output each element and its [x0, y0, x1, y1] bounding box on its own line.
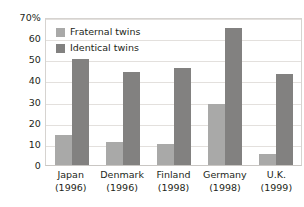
x-axis-category: Denmark(1996): [96, 169, 147, 194]
x-axis-category-name: Germany: [199, 169, 250, 182]
legend-swatch-fraternal: [56, 28, 65, 37]
x-axis-category: Japan(1996): [45, 169, 96, 194]
y-tick-label: 40: [0, 77, 41, 87]
bar-identical: [174, 68, 191, 165]
bar-fraternal: [106, 142, 123, 165]
y-tick-label: 30: [0, 98, 41, 108]
y-tick-label: 0: [0, 161, 41, 171]
bar-identical: [123, 72, 140, 165]
y-tick-label: 60: [0, 34, 41, 44]
x-axis-category: Finland(1998): [148, 169, 199, 194]
plot-area: Fraternal twins Identical twins: [45, 18, 302, 166]
x-axis-category-year: (1998): [199, 182, 250, 195]
legend-swatch-identical: [56, 44, 65, 53]
legend-item-identical: Identical twins: [56, 41, 140, 55]
chart-legend: Fraternal twins Identical twins: [56, 25, 140, 57]
bar-group: [148, 19, 199, 165]
x-axis-category-year: (1996): [45, 182, 96, 195]
x-axis-category-name: Denmark: [96, 169, 147, 182]
bar-group: [199, 19, 250, 165]
x-axis-category-year: (1999): [251, 182, 302, 195]
x-axis-category: U.K.(1999): [251, 169, 302, 194]
bar-fraternal: [259, 154, 276, 165]
y-tick-label: 70%: [0, 13, 41, 23]
bar-fraternal: [55, 135, 72, 165]
x-axis-category-year: (1996): [96, 182, 147, 195]
legend-label-fraternal: Fraternal twins: [70, 27, 140, 37]
bar-group: [250, 19, 301, 165]
y-tick-label: 10: [0, 140, 41, 150]
y-tick-label: 20: [0, 119, 41, 129]
bar-fraternal: [157, 144, 174, 165]
x-axis-category-name: Finland: [148, 169, 199, 182]
bar-identical: [225, 28, 242, 165]
y-tick-label: 50: [0, 56, 41, 66]
x-axis-category-name: U.K.: [251, 169, 302, 182]
legend-label-identical: Identical twins: [70, 43, 139, 53]
x-axis-category-name: Japan: [45, 169, 96, 182]
x-axis: Japan(1996)Denmark(1996)Finland(1998)Ger…: [45, 169, 302, 194]
x-axis-category-year: (1998): [148, 182, 199, 195]
y-axis: 010203040506070%: [0, 0, 41, 207]
twin-rates-bar-chart: 010203040506070% Fraternal twins Identic…: [0, 0, 304, 207]
bar-identical: [72, 59, 89, 165]
bar-fraternal: [208, 104, 225, 165]
x-axis-category: Germany(1998): [199, 169, 250, 194]
bar-identical: [276, 74, 293, 165]
legend-item-fraternal: Fraternal twins: [56, 25, 140, 39]
